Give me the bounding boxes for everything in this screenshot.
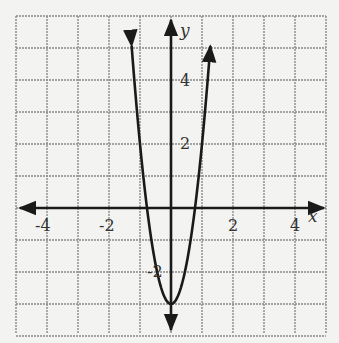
- coordinate-plane: -4 -2 2 4 4 2 -2 x y: [0, 0, 339, 343]
- x-tick-label: 2: [228, 216, 238, 235]
- x-axis-label: x: [308, 206, 318, 226]
- y-tick-label: 4: [180, 71, 190, 90]
- x-tick-label: -4: [35, 216, 51, 235]
- x-tick-label: -2: [99, 216, 115, 235]
- y-tick-label: 2: [180, 134, 190, 153]
- y-axis-label: y: [179, 20, 190, 40]
- y-tick-label: -2: [147, 262, 163, 281]
- x-tick-label: 4: [290, 216, 300, 235]
